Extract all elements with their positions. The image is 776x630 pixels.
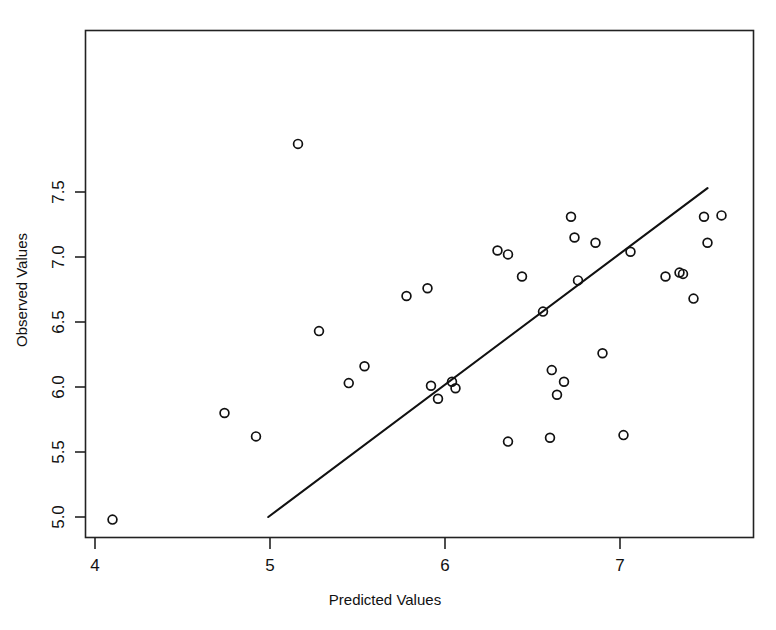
y-axis-title: Observed Values — [13, 233, 30, 347]
data-point — [547, 366, 556, 375]
data-point — [661, 272, 670, 281]
y-tick-label-0: 5.0 — [49, 505, 68, 529]
data-point — [546, 433, 555, 442]
y-tick-label-3: 6.5 — [49, 310, 68, 334]
y-axis-ticks — [75, 192, 86, 517]
regression-reference-line — [268, 188, 707, 517]
data-point — [626, 247, 635, 256]
data-point — [344, 379, 353, 388]
data-point — [402, 292, 411, 301]
data-point — [423, 284, 432, 293]
data-point — [108, 515, 117, 524]
x-axis-tick-labels: 4 5 6 7 — [90, 556, 624, 575]
data-point — [434, 394, 443, 403]
data-point — [252, 432, 261, 441]
x-tick-label-0: 4 — [90, 556, 99, 575]
data-point — [220, 409, 229, 418]
data-point — [598, 349, 607, 358]
y-tick-label-4: 7.0 — [49, 245, 68, 269]
data-point — [700, 212, 709, 221]
data-point — [574, 276, 583, 285]
x-axis-title: Predicted Values — [329, 591, 441, 608]
plot-canvas: 5.0 5.5 6.0 6.5 7.0 7.5 4 5 6 7 Predicte… — [0, 0, 776, 630]
y-tick-label-1: 5.5 — [49, 440, 68, 464]
data-point — [315, 327, 324, 336]
data-point — [591, 238, 600, 247]
data-point — [518, 272, 527, 281]
data-point — [427, 381, 436, 390]
data-point — [570, 233, 579, 242]
data-point — [619, 431, 628, 440]
x-tick-label-1: 5 — [265, 556, 274, 575]
data-point — [294, 140, 303, 149]
plot-frame — [86, 31, 754, 538]
data-point — [567, 212, 576, 221]
data-point — [493, 246, 502, 255]
data-point — [703, 238, 712, 247]
data-point — [504, 250, 513, 259]
x-axis-ticks — [95, 538, 620, 550]
scatter-plot-figure: 5.0 5.5 6.0 6.5 7.0 7.5 4 5 6 7 Predicte… — [0, 0, 776, 630]
data-point — [504, 437, 513, 446]
y-tick-label-5: 7.5 — [49, 180, 68, 204]
x-tick-label-3: 7 — [615, 556, 624, 575]
scatter-points-layer — [108, 140, 726, 524]
data-point — [560, 377, 569, 386]
data-point — [553, 390, 562, 399]
data-point — [717, 211, 726, 220]
x-tick-label-2: 6 — [440, 556, 449, 575]
data-point — [689, 294, 698, 303]
y-tick-label-2: 6.0 — [49, 375, 68, 399]
data-point — [360, 362, 369, 371]
y-axis-tick-labels: 5.0 5.5 6.0 6.5 7.0 7.5 — [49, 180, 68, 529]
